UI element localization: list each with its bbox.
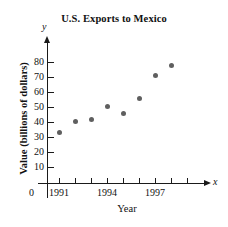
chart-container: U.S. Exports to Mexico y x 1020304050607… <box>0 0 228 227</box>
x-axis-tick <box>187 178 188 184</box>
y-axis-tick <box>48 152 54 153</box>
x-axis-line <box>38 183 206 184</box>
y-axis-arrow-icon <box>44 36 50 43</box>
x-axis-tick <box>75 178 76 184</box>
y-axis-line <box>47 42 48 198</box>
data-point <box>137 96 142 101</box>
y-axis-tick <box>48 137 54 138</box>
origin-label: 0 <box>29 187 34 198</box>
y-axis-tick <box>48 122 54 123</box>
data-point <box>153 73 158 78</box>
data-point <box>169 63 174 68</box>
y-axis-tick <box>48 167 54 168</box>
x-axis-tick <box>107 178 108 184</box>
x-axis-tick <box>139 178 140 184</box>
x-axis-arrow-icon <box>204 180 211 186</box>
x-axis-tick <box>155 178 156 184</box>
data-point <box>89 117 94 122</box>
x-axis-tick <box>91 178 92 184</box>
y-axis-tick <box>48 107 54 108</box>
x-axis-title: Year <box>47 203 207 214</box>
data-point <box>105 104 110 109</box>
data-point <box>57 130 62 135</box>
y-axis-tick <box>48 92 54 93</box>
y-axis-variable-letter: y <box>42 21 46 32</box>
y-axis-tick <box>48 62 54 63</box>
y-axis-tick <box>48 77 54 78</box>
plot-area: y x 1020304050607080 199119941997 0 <box>0 0 228 227</box>
x-axis-tick <box>59 178 60 184</box>
y-axis-title: Value (billions of dollars) <box>18 39 29 199</box>
data-point <box>73 119 78 124</box>
x-axis-tick <box>123 178 124 184</box>
x-axis-tick <box>171 178 172 184</box>
x-axis-tick-label: 1994 <box>87 187 127 198</box>
data-point <box>121 111 126 116</box>
x-axis-variable-letter: x <box>213 176 217 187</box>
x-axis-tick-label: 1991 <box>39 187 79 198</box>
x-axis-tick-label: 1997 <box>135 187 175 198</box>
